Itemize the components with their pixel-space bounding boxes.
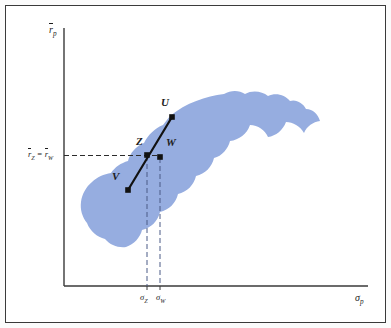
plot-canvas: [0, 0, 391, 328]
overbar: [49, 23, 52, 24]
x-axis-label: σp: [355, 292, 364, 306]
point-label-Z: Z: [136, 135, 143, 147]
y-tick-rw-main: r: [45, 149, 48, 159]
y-tick-rz-main: r: [28, 149, 31, 159]
x-tick-sigma-w-sub: W: [160, 298, 165, 304]
point-label-V: V: [112, 170, 120, 182]
y-tick-rw-sub: W: [48, 155, 53, 161]
x-tick-label-sigma-w: σW: [156, 292, 165, 304]
point-marker-U: [169, 114, 175, 120]
y-axis-label-sub: p: [53, 30, 57, 38]
y-axis-label-main-wrap: r: [49, 24, 53, 35]
overbar: [45, 148, 48, 149]
y-axis-label: rp: [49, 24, 57, 38]
point-marker-Z: [144, 152, 150, 158]
rz-main-wrap: r: [28, 149, 31, 159]
rw-main-wrap: r: [45, 149, 48, 159]
x-tick-sigma-z-sub: Z: [144, 298, 147, 304]
point-marker-W: [157, 154, 163, 160]
overbar: [28, 148, 31, 149]
point-label-U: U: [161, 96, 169, 108]
y-axis-label-main: r: [49, 24, 53, 35]
point-marker-V: [125, 187, 131, 193]
point-label-W: W: [166, 136, 176, 148]
x-tick-label-sigma-z: σZ: [140, 292, 148, 304]
x-axis-label-sub: p: [360, 298, 364, 306]
figure-container: U Z W V rp σp rZ = rW σZ σW: [0, 0, 391, 328]
y-tick-equals: =: [35, 149, 45, 159]
y-tick-label-rz-rw: rZ = rW: [28, 149, 53, 161]
